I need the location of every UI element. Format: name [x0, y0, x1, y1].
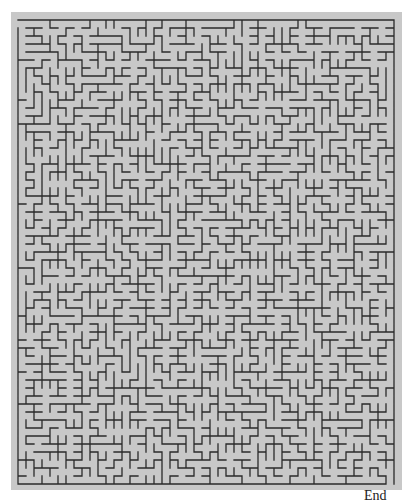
maze-walls	[0, 0, 412, 500]
end-label: End	[364, 489, 387, 500]
maze-wall-paths	[18, 20, 394, 484]
